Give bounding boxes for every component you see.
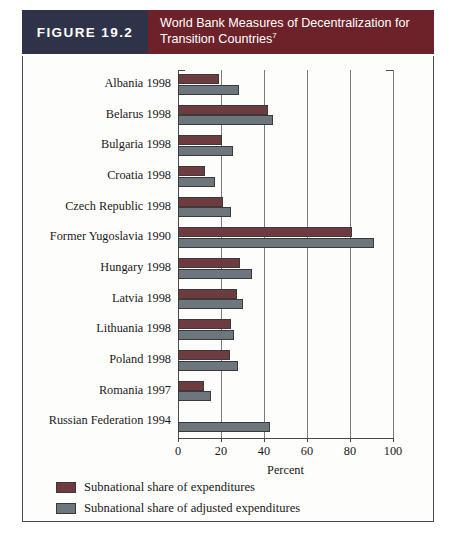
- figure-title-line-1: World Bank Measures of Decentralization …: [160, 16, 434, 32]
- x-tick-label-20: 20: [215, 444, 227, 459]
- tick-mark-40: [264, 438, 265, 442]
- bar-rows: Albania 1998Belarus 1998Bulgaria 1998Cro…: [178, 70, 393, 438]
- bar-expenditures: [178, 135, 222, 145]
- tick-mark-80: [350, 438, 351, 442]
- bar-adjusted-expenditures: [178, 238, 374, 248]
- legend-swatch-primary: [56, 482, 76, 493]
- bar-expenditures: [178, 166, 205, 176]
- category-label: Albania 1998: [104, 76, 171, 90]
- bar-row: Romania 1997: [178, 377, 393, 408]
- tick-mark-0: [178, 438, 179, 442]
- bar-row: Croatia 1998: [178, 162, 393, 193]
- bar-adjusted-expenditures: [178, 146, 233, 156]
- bar-row: Hungary 1998: [178, 254, 393, 285]
- category-label: Belarus 1998: [106, 107, 171, 121]
- bar-row: Bulgaria 1998: [178, 131, 393, 162]
- x-axis-title: Percent: [267, 463, 304, 478]
- bar-adjusted-expenditures: [178, 391, 211, 401]
- bar-row: Lithuania 1998: [178, 315, 393, 346]
- category-label: Latvia 1998: [112, 291, 171, 305]
- bar-row: Czech Republic 1998: [178, 193, 393, 224]
- legend-swatch-secondary: [56, 503, 76, 514]
- category-label: Czech Republic 1998: [65, 199, 171, 213]
- legend-label: Subnational share of adjusted expenditur…: [84, 501, 300, 516]
- bar-adjusted-expenditures: [178, 330, 234, 340]
- figure-number-tag: FIGURE 19.2: [22, 10, 148, 54]
- figure-title-line-2: Transition Countries: [160, 32, 272, 46]
- bar-row: Poland 1998: [178, 346, 393, 377]
- category-label: Romania 1997: [99, 383, 171, 397]
- legend-label: Subnational share of expenditures: [84, 480, 255, 495]
- bar-expenditures: [178, 319, 231, 329]
- bar-adjusted-expenditures: [178, 207, 231, 217]
- figure-footnote-marker: 7: [272, 30, 276, 39]
- bar-adjusted-expenditures: [178, 361, 238, 371]
- figure-title-line-2-wrap: Transition Countries7: [160, 32, 434, 48]
- bar-adjusted-expenditures: [178, 85, 239, 95]
- figure-title: World Bank Measures of Decentralization …: [148, 10, 434, 54]
- category-label: Croatia 1998: [107, 168, 171, 182]
- tick-mark-20: [221, 438, 222, 442]
- bar-row: Russian Federation 1994: [178, 407, 393, 438]
- chart-plot-area: Albania 1998Belarus 1998Bulgaria 1998Cro…: [178, 70, 393, 438]
- bar-expenditures: [178, 381, 204, 391]
- bar-expenditures: [178, 74, 219, 84]
- bar-expenditures: [178, 350, 230, 360]
- bar-row: Belarus 1998: [178, 101, 393, 132]
- legend-item: Subnational share of adjusted expenditur…: [56, 500, 416, 517]
- x-tick-label-60: 60: [301, 444, 313, 459]
- bar-expenditures: [178, 289, 237, 299]
- category-label: Lithuania 1998: [96, 321, 171, 335]
- bar-adjusted-expenditures: [178, 115, 273, 125]
- chart-legend: Subnational share of expendituresSubnati…: [56, 479, 416, 521]
- x-tick-label-80: 80: [344, 444, 356, 459]
- legend-item: Subnational share of expenditures: [56, 479, 416, 496]
- x-tick-label-0: 0: [175, 444, 181, 459]
- category-label: Hungary 1998: [100, 260, 171, 274]
- bar-row: Albania 1998: [178, 70, 393, 101]
- bar-adjusted-expenditures: [178, 177, 215, 187]
- figure-header: FIGURE 19.2 World Bank Measures of Decen…: [22, 10, 434, 54]
- tick-mark-60: [307, 438, 308, 442]
- bar-expenditures: [178, 197, 223, 207]
- bar-row: Former Yugoslavia 1990: [178, 223, 393, 254]
- bar-expenditures: [178, 227, 352, 237]
- tick-mark-100: [393, 438, 394, 442]
- bar-expenditures: [178, 258, 240, 268]
- gridline-100: [393, 70, 394, 438]
- x-tick-label-40: 40: [258, 444, 270, 459]
- bar-adjusted-expenditures: [178, 299, 243, 309]
- category-label: Former Yugoslavia 1990: [50, 229, 171, 243]
- category-label: Bulgaria 1998: [101, 137, 171, 151]
- category-label: Russian Federation 1994: [49, 413, 171, 427]
- x-tick-label-100: 100: [384, 444, 402, 459]
- bar-expenditures: [178, 105, 268, 115]
- bar-row: Latvia 1998: [178, 285, 393, 316]
- category-label: Poland 1998: [109, 352, 171, 366]
- figure-container: FIGURE 19.2 World Bank Measures of Decen…: [0, 0, 455, 536]
- bar-adjusted-expenditures: [178, 422, 270, 432]
- bar-adjusted-expenditures: [178, 269, 252, 279]
